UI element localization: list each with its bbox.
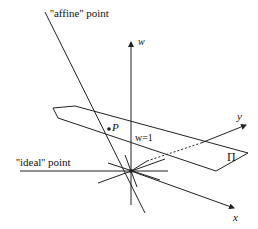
point-p [107, 127, 111, 131]
projective-plane-diagram: ''affine'' point ''ideal'' point w x y P… [0, 0, 258, 229]
w-axis-label: w [138, 37, 145, 47]
y-axis-far [201, 125, 246, 143]
point-p-label: P [112, 122, 119, 133]
plane-equation-label: w=1 [135, 133, 153, 143]
diagram-lines [0, 0, 258, 229]
y-axis-hidden [147, 143, 201, 161]
plane-name-label: Π [227, 151, 236, 163]
x-axis-label: x [233, 212, 238, 223]
ideal-point-label: ''ideal'' point [16, 157, 71, 168]
affine-ray [45, 12, 145, 213]
affine-point-label: ''affine'' point [50, 8, 109, 19]
x-axis [131, 171, 234, 208]
y-axis-label: y [237, 111, 242, 122]
